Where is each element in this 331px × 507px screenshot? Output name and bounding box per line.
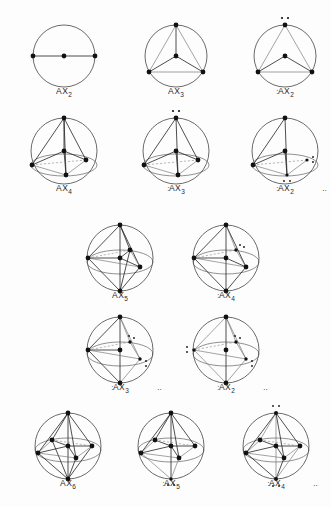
bond-line: [285, 56, 312, 72]
lone-pair-dot: [287, 17, 289, 19]
formula-subscript: 4: [231, 295, 235, 302]
atom-x-axial: [169, 411, 174, 416]
bond-line: [258, 56, 285, 72]
atom-x: [196, 158, 201, 163]
diagram-ax2-3lp: :AX2 ··: [178, 302, 274, 398]
equator-ellipse: [31, 154, 97, 176]
edge-line: [287, 160, 307, 175]
atom-center: [62, 149, 67, 154]
atom-x: [147, 70, 152, 75]
atom-x-equatorial: [244, 265, 249, 270]
formula-text: AX: [56, 183, 68, 193]
edge-line: [149, 25, 176, 72]
bond-line: [88, 225, 120, 258]
atom-x-equatorial: [153, 438, 158, 443]
atom-lone-pair-site: [244, 357, 247, 360]
hidden-edge-line: [52, 440, 92, 446]
label-ax4-2lp: :AX4 ··: [228, 478, 324, 490]
atom-x: [176, 173, 181, 178]
edge-line: [141, 453, 179, 458]
edge-line: [258, 25, 285, 72]
atom-x: [201, 70, 206, 75]
bond-line: [155, 413, 171, 440]
lone-under: ··: [267, 484, 331, 488]
lone-pair-dot: [133, 337, 135, 339]
diagram-ax4-1lp: :AX4: [178, 210, 274, 306]
bond-line: [194, 225, 226, 258]
edge-line: [178, 160, 198, 175]
diagram-ax3-2lp: :AX3 ··: [72, 302, 168, 398]
atom-x: [30, 163, 35, 168]
diagram-ax2-1lp: :AX2: [237, 8, 331, 104]
bond-line: [226, 317, 246, 359]
formula-subscript: 5: [176, 483, 180, 490]
bond-line: [176, 118, 198, 160]
edge-line: [38, 453, 76, 458]
formula-text: AX: [168, 86, 180, 96]
bond-line: [226, 359, 246, 383]
atom-center: [118, 256, 123, 261]
formula-subscript: 5: [124, 295, 128, 302]
label-ax3-2lp: :AX3 ··: [72, 382, 168, 394]
edge-line: [176, 25, 203, 72]
atom-center: [274, 444, 279, 449]
lone-pair-dot: [243, 246, 245, 248]
label-ax4: AX4: [16, 183, 112, 195]
bond-line: [226, 258, 246, 267]
lone-pair-dot: [281, 17, 283, 19]
hidden-edge-line: [253, 160, 307, 165]
atom-lone-pair-site: [234, 248, 237, 251]
lone-under: ··: [276, 189, 331, 193]
formula-subscript: 6: [72, 483, 76, 490]
equator-ellipse: [143, 154, 209, 176]
bond-line: [52, 413, 68, 440]
atom-center: [62, 54, 67, 59]
atom-center: [66, 444, 71, 449]
bond-line: [260, 413, 276, 440]
lone-pair-dot: [234, 335, 236, 337]
bond-line: [176, 56, 203, 72]
atom-lone-pair-site: [234, 340, 237, 343]
diagram-ax5: AX5: [72, 210, 168, 306]
atom-x: [142, 163, 147, 168]
atom-center: [118, 348, 123, 353]
atom-x-equatorial: [86, 256, 91, 261]
atom-x-axial: [118, 315, 123, 320]
lone-pair-dot: [312, 161, 314, 163]
bond-line: [68, 413, 76, 458]
lone-pair-dot: [251, 365, 253, 367]
edge-line: [285, 25, 312, 72]
label-ax6: AX6: [20, 478, 116, 490]
lone-pair-dot: [186, 351, 188, 353]
atom-x-axial: [66, 411, 71, 416]
diagram-ax4: AX4: [16, 103, 112, 199]
atom-lone-pair-site: [274, 411, 278, 415]
atom-center: [174, 54, 179, 59]
lone-pair-dot: [278, 405, 280, 407]
atom-x-equatorial: [50, 438, 55, 443]
label-ax5-1lp: :AX5: [123, 478, 219, 490]
atom-x: [256, 70, 261, 75]
atom-x-equatorial: [193, 444, 198, 449]
formula-subscript: 2: [68, 91, 72, 98]
lone-pair-dot: [172, 110, 174, 112]
atom-lone-pair-site: [192, 348, 195, 351]
atom-x-equatorial: [244, 451, 249, 456]
formula-text: AX: [60, 478, 72, 488]
diagram-ax2: AX2: [16, 8, 112, 104]
bond-line: [120, 258, 140, 267]
atom-x: [31, 54, 36, 59]
edge-line: [246, 453, 284, 458]
atom-x-axial: [224, 223, 229, 228]
edge-line: [66, 160, 86, 175]
atom-x: [64, 173, 69, 178]
bond-line: [226, 267, 246, 291]
vsepr-geometry-chart: AX2 AX3: [0, 0, 331, 507]
atom-x-equatorial: [177, 456, 182, 461]
atom-x-equatorial: [36, 451, 41, 456]
bond-line: [64, 118, 86, 160]
bond-line: [171, 413, 179, 458]
atom-center: [169, 444, 174, 449]
label-ax4-1lp: :AX4: [178, 290, 274, 302]
equator-ellipse: [252, 154, 318, 176]
